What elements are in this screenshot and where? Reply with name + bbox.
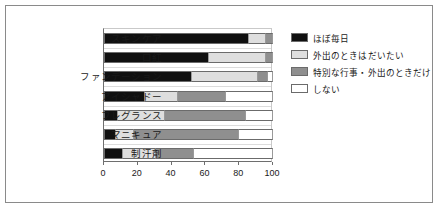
category-label: アイシャドー [101, 89, 162, 103]
chart-screenshot: ほぼ毎日 外出のときはだいたい 特別な行事・外出のときだけ しない スキンケア口… [0, 0, 439, 209]
x-tick-label: 100 [264, 168, 279, 178]
bar-segment [226, 91, 273, 102]
bar-segment [239, 129, 273, 140]
bar-segment [192, 71, 258, 82]
x-tick-label: 80 [233, 168, 243, 178]
x-tick-mark [238, 162, 239, 165]
category-label: スキンケア [111, 31, 162, 45]
legend-label-series-3: 特別な行事・外出のときだけ [313, 66, 431, 78]
category-label: フレグランス [101, 108, 162, 122]
legend-item: ほぼ毎日 [291, 30, 433, 45]
legend-label-series-1: ほぼ毎日 [313, 32, 349, 44]
x-tick-mark [272, 162, 273, 165]
bar-segment [249, 33, 266, 44]
category-label: ファンデーション [80, 69, 162, 83]
row-gridline [104, 86, 271, 87]
legend-swatch-series-4 [291, 84, 308, 93]
bar-segment [194, 148, 273, 159]
row-gridline [104, 144, 271, 145]
row-gridline [104, 48, 271, 49]
bar-segment [209, 52, 266, 63]
legend-label-series-4: しない [313, 83, 340, 95]
bar-segment [246, 110, 273, 121]
bar-segment [258, 71, 268, 82]
row-gridline [104, 67, 271, 68]
legend-swatch-series-2 [291, 50, 308, 59]
legend-item: しない [291, 81, 433, 96]
row-gridline [104, 125, 271, 126]
x-tick-mark [204, 162, 205, 165]
bar-segment [104, 148, 123, 159]
category-label: マニキュア [111, 127, 162, 141]
chart-legend: ほぼ毎日 外出のときはだいたい 特別な行事・外出のときだけ しない [291, 30, 433, 98]
chart-frame: ほぼ毎日 外出のときはだいたい 特別な行事・外出のときだけ しない スキンケア口… [5, 5, 433, 203]
bar-segment [178, 91, 225, 102]
bar-口紅 [104, 52, 273, 63]
category-label: 口紅 [142, 50, 162, 64]
legend-swatch-series-3 [291, 67, 308, 76]
bar-segment [266, 33, 273, 44]
legend-item: 特別な行事・外出のときだけ [291, 64, 433, 79]
legend-label-series-2: 外出のときはだいたい [313, 49, 404, 61]
x-tick-label: 40 [166, 168, 176, 178]
legend-item: 外出のときはだいたい [291, 47, 433, 62]
bar-制汗剤 [104, 148, 273, 159]
category-label: 制汗剤 [131, 146, 162, 160]
x-tick-label: 0 [100, 168, 105, 178]
row-gridline [104, 106, 271, 107]
bar-segment [268, 71, 273, 82]
x-tick-label: 20 [132, 168, 142, 178]
x-tick-mark [103, 162, 104, 165]
x-tick-mark [137, 162, 138, 165]
x-tick-mark [171, 162, 172, 165]
x-tick-label: 60 [199, 168, 209, 178]
legend-swatch-series-1 [291, 33, 308, 42]
bar-segment [165, 110, 246, 121]
bar-segment [266, 52, 273, 63]
